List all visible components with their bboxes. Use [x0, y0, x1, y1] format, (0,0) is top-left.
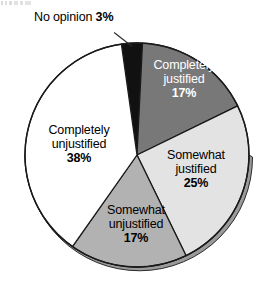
- completely-justified-percent: 17%: [136, 86, 232, 100]
- completely-unjustified-percent: 38%: [26, 151, 132, 165]
- somewhat-justified-line1: Somewhat: [150, 148, 242, 162]
- pie-chart: No opinion 3% Completely justified 17% S…: [0, 0, 276, 297]
- somewhat-unjustified-line2: unjustified: [85, 217, 187, 231]
- somewhat-justified-line2: justified: [150, 162, 242, 176]
- somewhat-unjustified-line1: Somewhat: [85, 203, 187, 217]
- slice-label-completely-unjustified: Completely unjustified 38%: [26, 123, 132, 165]
- slice-label-somewhat-justified: Somewhat justified 25%: [150, 148, 242, 190]
- completely-justified-line1: Completely: [136, 58, 232, 72]
- slice-label-somewhat-unjustified: Somewhat unjustified 17%: [85, 203, 187, 245]
- slice-label-completely-justified: Completely justified 17%: [136, 58, 232, 100]
- completely-unjustified-line2: unjustified: [26, 137, 132, 151]
- somewhat-justified-percent: 25%: [150, 176, 242, 190]
- completely-justified-line2: justified: [136, 72, 232, 86]
- somewhat-unjustified-percent: 17%: [85, 231, 187, 245]
- slice-label-no-opinion: No opinion 3%: [34, 10, 154, 24]
- completely-unjustified-line1: Completely: [26, 123, 132, 137]
- no-opinion-percent: 3%: [96, 10, 114, 24]
- no-opinion-name: No opinion: [34, 10, 92, 24]
